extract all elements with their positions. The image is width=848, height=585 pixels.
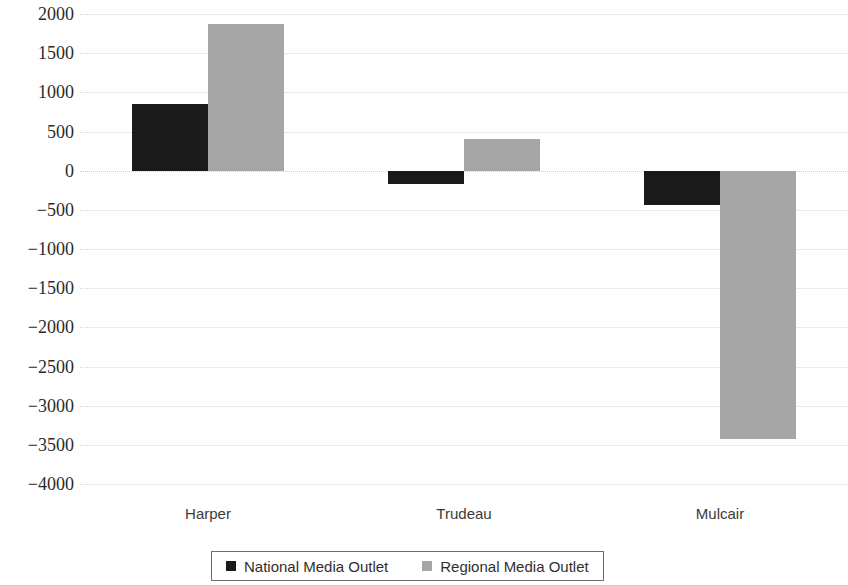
y-tick-label: −1500	[2, 279, 74, 297]
gridline	[80, 53, 848, 54]
bar-trudeau-regional	[464, 139, 540, 171]
x-tick-label-trudeau: Trudeau	[404, 505, 524, 522]
y-tick-label: −4000	[2, 475, 74, 493]
bar-trudeau-national	[388, 171, 464, 184]
y-tick-label: 0	[2, 162, 74, 180]
x-tick-label-harper: Harper	[148, 505, 268, 522]
y-tick-label: −2000	[2, 318, 74, 336]
y-tick-label: 1500	[2, 44, 74, 62]
plot-area: HarperTrudeauMulcair	[80, 0, 848, 496]
gridline	[80, 92, 848, 93]
bar-mulcair-regional	[720, 171, 796, 440]
y-tick-label: −3000	[2, 397, 74, 415]
y-tick-label: −1000	[2, 240, 74, 258]
y-tick-label: 1000	[2, 83, 74, 101]
chart-legend: National Media OutletRegional Media Outl…	[211, 551, 604, 581]
bar-chart: 2000150010005000−500−1000−1500−2000−2500…	[0, 0, 848, 585]
bar-harper-national	[132, 104, 208, 171]
gridline	[80, 14, 848, 15]
y-tick-label: −3500	[2, 436, 74, 454]
y-tick-label: 500	[2, 123, 74, 141]
bar-mulcair-national	[644, 171, 720, 205]
legend-swatch-icon	[422, 561, 432, 571]
gridline	[80, 484, 848, 485]
y-tick-label: −500	[2, 201, 74, 219]
y-tick-label: 2000	[2, 5, 74, 23]
y-axis: 2000150010005000−500−1000−1500−2000−2500…	[0, 0, 74, 496]
legend-label: National Media Outlet	[244, 559, 388, 574]
legend-item-national: National Media Outlet	[226, 559, 388, 574]
bar-harper-regional	[208, 24, 284, 170]
x-tick-label-mulcair: Mulcair	[660, 505, 780, 522]
legend-label: Regional Media Outlet	[440, 559, 588, 574]
legend-item-regional: Regional Media Outlet	[422, 559, 588, 574]
y-tick-label: −2500	[2, 358, 74, 376]
gridline	[80, 445, 848, 446]
legend-swatch-icon	[226, 561, 236, 571]
